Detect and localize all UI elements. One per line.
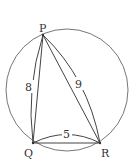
- side-label-pq: 8: [25, 81, 32, 94]
- side-label-qr: 5: [63, 128, 70, 141]
- vertex-r-dot: [99, 142, 101, 144]
- side-label-pr: 9: [75, 78, 82, 91]
- geometry-diagram: P Q R 8 9 5: [0, 0, 138, 166]
- vertex-q-dot: [32, 142, 34, 144]
- vertex-label-p: P: [39, 22, 47, 35]
- side-pr: [43, 35, 100, 143]
- vertex-label-r: R: [101, 147, 110, 160]
- vertex-label-q: Q: [24, 147, 33, 160]
